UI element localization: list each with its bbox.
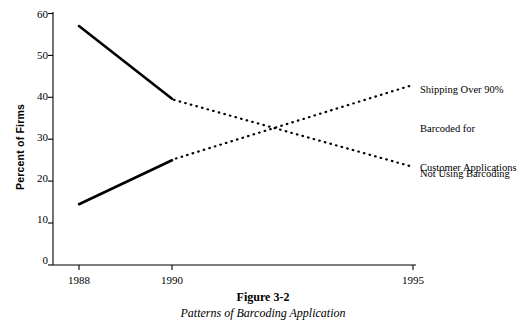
figure-container: Percent of Firms 60 50 40 30 20 10 0 198… xyxy=(0,0,526,335)
annotation-shipping-barcoded-line1: Shipping Over 90% xyxy=(420,83,517,96)
figure-number: Figure 3-2 xyxy=(0,290,526,305)
annotation-shipping-barcoded-line2: Barcoded for xyxy=(420,122,517,135)
series-shipping-barcoded-dotted xyxy=(176,85,413,159)
series-shipping-barcoded-solid xyxy=(79,160,172,204)
annotation-not-using-barcoding: Not Using Barcoding xyxy=(420,167,510,180)
series-not-using-barcoding-dotted xyxy=(174,100,413,167)
series-not-using-barcoding-solid xyxy=(79,26,172,99)
figure-caption: Patterns of Barcoding Application xyxy=(0,306,526,321)
